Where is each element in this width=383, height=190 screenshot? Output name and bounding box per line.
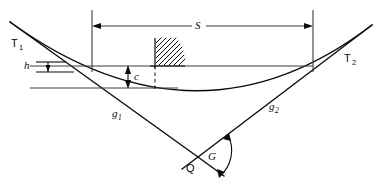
angle-label-g: G xyxy=(208,150,216,162)
dimension-arrow-s-right xyxy=(304,23,313,29)
dimension-label-h: h xyxy=(24,59,30,71)
label-t1-base: T xyxy=(11,37,18,49)
vertex-label-q: Q xyxy=(186,162,195,174)
hatch-lines xyxy=(156,38,185,65)
label-g2: g 2 xyxy=(269,100,279,115)
angle-arc-g xyxy=(220,135,232,176)
label-g2-subscript: 2 xyxy=(275,106,279,115)
label-g1: g 1 xyxy=(112,107,122,122)
dimension-arrow-h xyxy=(46,65,51,72)
hatched-obstruction xyxy=(150,38,185,68)
figure-canvas: S c xyxy=(0,0,383,190)
label-t1: T 1 xyxy=(11,37,23,52)
label-g1-subscript: 1 xyxy=(118,113,122,122)
label-t1-subscript: 1 xyxy=(19,43,23,52)
vertical-curve-diagram: S c xyxy=(0,0,383,190)
parabolic-curve xyxy=(10,22,372,91)
dimension-label-s: S xyxy=(195,19,201,31)
dimension-label-c: c xyxy=(134,70,139,82)
tangent-line-g2 xyxy=(198,25,372,157)
label-t2: T 2 xyxy=(344,52,356,67)
label-t2-base: T xyxy=(344,52,351,64)
dimension-arrow-s-left xyxy=(92,23,101,29)
label-t2-subscript: 2 xyxy=(352,58,356,67)
